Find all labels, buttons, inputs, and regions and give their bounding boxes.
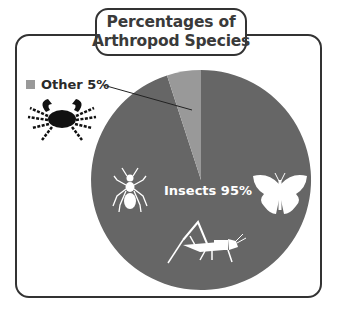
crab-icon <box>28 99 96 140</box>
chart-title: Percentages of Arthropod Species <box>95 8 247 56</box>
title-line-2: Arthropod Species <box>92 32 250 51</box>
legend-swatch-other <box>26 80 35 89</box>
legend-other: Other 5% <box>26 77 109 92</box>
title-line-1: Percentages of <box>107 13 236 32</box>
legend-label-other: Other 5% <box>41 77 109 92</box>
insects-label: Insects 95% <box>164 183 252 198</box>
